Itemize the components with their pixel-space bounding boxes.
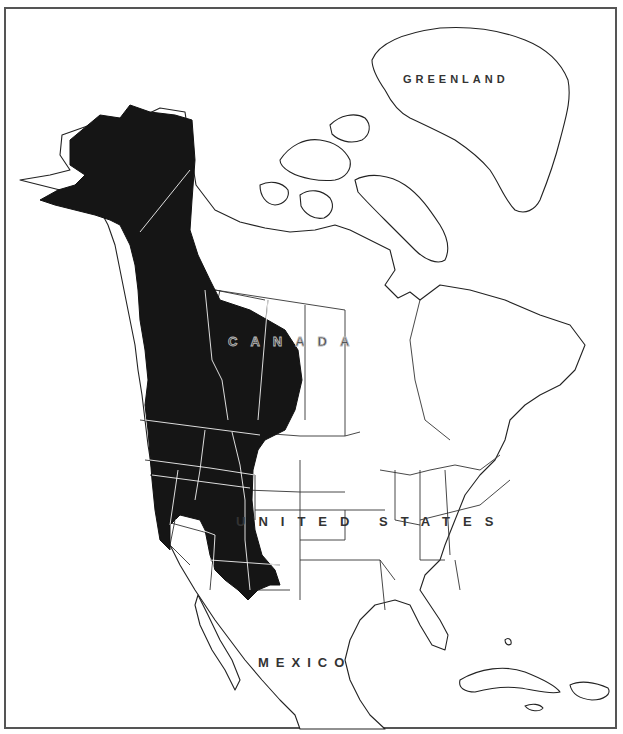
north-america-map (0, 0, 623, 734)
label-united-states: UNITED STATES (236, 514, 506, 529)
jamaica (525, 704, 543, 711)
arctic-islands (330, 115, 369, 142)
arctic-islands (280, 140, 350, 181)
label-canada-text: CANADA (228, 334, 362, 349)
label-greenland: GREENLAND (403, 73, 509, 85)
bahamas (505, 639, 511, 645)
cuba (460, 668, 560, 693)
arctic-islands (300, 191, 332, 219)
arctic-islands (260, 182, 288, 205)
label-mexico: MEXICO (258, 655, 351, 670)
label-canada: CANADA (228, 334, 362, 349)
hispaniola (570, 682, 609, 700)
